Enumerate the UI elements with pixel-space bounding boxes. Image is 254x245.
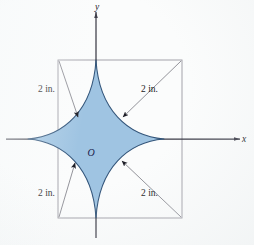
origin-label: O <box>87 147 94 158</box>
astroid-figure: 2 in. 2 in. 2 in. 2 in. x y O <box>0 0 254 245</box>
x-axis-tip <box>234 137 240 141</box>
y-axis-label: y <box>94 2 100 12</box>
x-axis-label: x <box>241 134 247 144</box>
y-axis-tip <box>94 12 98 18</box>
dimension-label-bottom-left: 2 in. <box>38 188 55 198</box>
dimension-label-bottom-right: 2 in. <box>141 188 158 198</box>
figure-canvas: 2 in. 2 in. 2 in. 2 in. x y O <box>0 0 254 245</box>
dimension-label-top-left: 2 in. <box>38 84 55 94</box>
callout-leader-top-left <box>59 61 78 117</box>
dimension-label-top-right: 2 in. <box>141 84 158 94</box>
callout-leader-bottom-left <box>59 163 75 217</box>
